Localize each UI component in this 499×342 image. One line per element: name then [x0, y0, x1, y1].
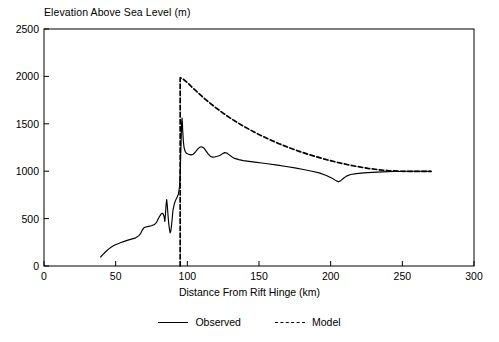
x-tick-label: 250	[382, 270, 422, 282]
x-tick-label: 200	[311, 270, 351, 282]
chart-legend: Observed Model	[0, 316, 499, 328]
y-tick-label: 1500	[0, 118, 39, 130]
series-line-observed	[101, 118, 431, 257]
legend-line-dashed-icon	[275, 322, 305, 323]
x-axis-title: Distance From Rift Hinge (km)	[0, 286, 499, 298]
x-tick-label: 300	[454, 270, 494, 282]
elevation-profile-chart: Elevation Above Sea Level (m) 0500100015…	[0, 0, 499, 342]
legend-entry-model: Model	[275, 316, 341, 328]
y-tick-label: 500	[0, 213, 39, 225]
y-tick-label: 2500	[0, 23, 39, 35]
plot-frame	[44, 29, 474, 266]
legend-label-observed: Observed	[195, 316, 241, 328]
y-tick-label: 2000	[0, 70, 39, 82]
y-tick-label: 1000	[0, 165, 39, 177]
legend-entry-observed: Observed	[158, 316, 241, 328]
legend-label-model: Model	[312, 316, 341, 328]
x-tick-label: 0	[24, 270, 64, 282]
x-tick-label: 150	[239, 270, 279, 282]
legend-line-solid-icon	[158, 322, 188, 323]
x-tick-label: 50	[96, 270, 136, 282]
x-tick-label: 100	[167, 270, 207, 282]
